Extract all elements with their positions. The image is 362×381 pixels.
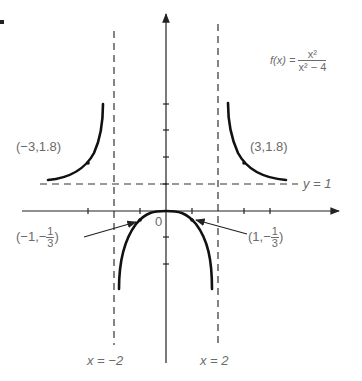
label-left-lower-point: (−1,−13): [16, 226, 59, 249]
formula-numerator: x²: [298, 48, 326, 61]
label-left-vertical-asymptote: x = −2: [87, 354, 123, 367]
label-horizontal-asymptote: y = 1: [303, 177, 332, 190]
label-right-lower-point: (1,−13): [248, 226, 283, 249]
formula-lhs: f(x) =: [270, 54, 295, 66]
formula-fraction: x² x² − 4: [298, 48, 326, 73]
formula-denominator: x² − 4: [298, 61, 326, 73]
leader-right: [196, 220, 247, 234]
function-formula: f(x) = x² x² − 4: [270, 48, 326, 73]
label-origin: 0: [155, 215, 162, 228]
curves: [48, 103, 286, 289]
label-right-upper-point: (3,1.8): [250, 140, 288, 153]
fraction-one-third: 13: [271, 226, 279, 249]
label-right-vertical-asymptote: x = 2: [200, 354, 229, 367]
label-left-upper-point: (−3,1.8): [16, 140, 61, 153]
